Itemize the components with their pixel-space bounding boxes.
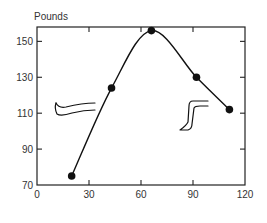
y-tick-label: 70 — [22, 180, 34, 191]
y-tick-label: 130 — [16, 72, 33, 83]
x-tick-label: 120 — [237, 189, 254, 200]
x-tick-label: 0 — [34, 189, 40, 200]
y-tick-label: 110 — [17, 108, 33, 119]
data-point — [193, 73, 201, 81]
y-tick-label: 90 — [22, 144, 34, 155]
line-chart: Pounds 7090110130150 0306090120 — [0, 0, 267, 223]
y-tick-label: 150 — [16, 36, 33, 47]
x-axis-ticks: 0306090120 — [34, 27, 254, 200]
data-point — [148, 27, 156, 35]
bent-knee-leg-icon — [180, 101, 208, 130]
x-tick-label: 60 — [135, 189, 147, 200]
x-tick-label: 30 — [83, 189, 95, 200]
data-point — [226, 106, 234, 114]
y-axis-ticks: 7090110130150 — [16, 36, 245, 191]
extended-leg-icon — [55, 103, 95, 115]
y-axis-label: Pounds — [34, 11, 68, 22]
data-point — [68, 172, 76, 180]
data-point — [108, 84, 116, 92]
x-tick-label: 90 — [187, 189, 199, 200]
